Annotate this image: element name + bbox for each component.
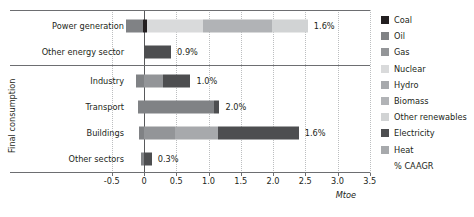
x-axis-tick-label: 3.5 <box>363 176 376 186</box>
bar-segment-oil <box>136 75 144 88</box>
x-axis-unit-label: Mtoe <box>336 190 356 200</box>
legend-swatch-icon <box>381 48 389 56</box>
legend: CoalOilGasNuclearHydroBiomassOther renew… <box>381 12 473 174</box>
bar-row: Transport2.0% <box>10 94 370 120</box>
caagr-value-label: 0.3% <box>158 154 179 164</box>
chart-root: Power generation1.6%Other energy sector0… <box>0 0 474 217</box>
legend-label: Oil <box>394 31 405 41</box>
bar-segment-hydro <box>175 127 218 140</box>
legend-label: Heat <box>394 145 413 155</box>
legend-label: Coal <box>394 15 412 25</box>
x-axis-tick-label: 1.0 <box>202 176 215 186</box>
bar-segment-electricity <box>218 127 299 140</box>
legend-item-gas[interactable]: Gas <box>381 44 473 60</box>
bar-row: Power generation1.6% <box>10 13 370 39</box>
x-axis-tick-label: 0.5 <box>170 176 183 186</box>
caagr-value-label: 1.0% <box>196 76 217 86</box>
legend-item-coal[interactable]: Coal <box>381 12 473 28</box>
legend-label: Other renewables <box>394 112 467 122</box>
bar-row: Other energy sector0.9% <box>10 39 370 65</box>
x-axis-tick-label: 1.5 <box>234 176 247 186</box>
bar-segment-gas <box>144 127 175 140</box>
bar-segment-oil <box>138 101 214 114</box>
legend-swatch-placeholder <box>381 162 389 170</box>
legend-swatch-icon <box>381 129 389 137</box>
bar-segment-gas <box>144 75 163 88</box>
caagr-value-label: 2.0% <box>225 102 246 112</box>
caagr-value-label: 1.6% <box>314 21 335 31</box>
bar-segment-nuclear <box>147 20 204 33</box>
bar-row: Buildings1.6% <box>10 120 370 146</box>
legend-swatch-icon <box>381 146 389 154</box>
legend-swatch-icon <box>381 16 389 24</box>
x-axis-tick-label: 2.0 <box>266 176 279 186</box>
x-axis-tick-label: 0 <box>141 176 146 186</box>
legend-label: Biomass <box>394 96 428 106</box>
bar-segment-electricity <box>144 153 152 166</box>
legend-item-hydro[interactable]: Hydro <box>381 77 473 93</box>
legend-item-electricity[interactable]: Electricity <box>381 125 473 141</box>
x-axis-tick-label: 2.5 <box>299 176 312 186</box>
legend-label: Nuclear <box>394 64 426 74</box>
legend-swatch-icon <box>381 65 389 73</box>
bar-track <box>10 94 370 120</box>
legend-label: % CAAGR <box>394 161 433 171</box>
bar-segment-electricity <box>214 101 219 114</box>
legend-label: Electricity <box>394 128 435 138</box>
legend-swatch-icon <box>381 81 389 89</box>
legend-swatch-icon <box>381 97 389 105</box>
legend-item-nuclear[interactable]: Nuclear <box>381 61 473 77</box>
legend-swatch-icon <box>381 113 389 121</box>
bar-track <box>10 68 370 94</box>
legend-swatch-icon <box>381 32 389 40</box>
legend-item-caagr[interactable]: % CAAGR <box>381 158 473 174</box>
legend-item-other-renewables[interactable]: Other renewables <box>381 109 473 125</box>
legend-label: Gas <box>394 47 410 57</box>
caagr-value-label: 0.9% <box>177 47 198 57</box>
bar-row: Industry1.0% <box>10 68 370 94</box>
group-label-final-consumption: Final consumption <box>7 83 17 153</box>
bar-segment-electricity <box>144 46 171 59</box>
bar-segment-biomass <box>203 20 271 33</box>
bar-segment-other-renewables <box>272 20 308 33</box>
bar-row: Other sectors0.3% <box>10 146 370 172</box>
legend-item-biomass[interactable]: Biomass <box>381 93 473 109</box>
legend-item-oil[interactable]: Oil <box>381 28 473 44</box>
bar-track <box>10 146 370 172</box>
bar-segment-electricity <box>163 75 190 88</box>
x-axis-tick-label: -0.5 <box>104 176 120 186</box>
bar-segment-oil <box>126 20 143 33</box>
x-axis-tick-label: 3.0 <box>331 176 344 186</box>
caagr-value-label: 1.6% <box>305 128 326 138</box>
section-divider <box>10 65 370 66</box>
legend-label: Hydro <box>394 80 418 90</box>
legend-item-heat[interactable]: Heat <box>381 142 473 158</box>
